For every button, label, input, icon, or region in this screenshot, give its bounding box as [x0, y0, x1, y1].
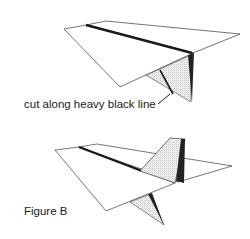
figure-a-airplane	[64, 21, 240, 104]
paper-airplane-diagram	[0, 0, 250, 239]
figure-b-airplane	[55, 138, 232, 225]
figure-b-caption: Figure B	[24, 205, 67, 217]
figure-a-caption: cut along heavy black line	[24, 98, 156, 110]
figure-a-arrow	[158, 94, 170, 104]
